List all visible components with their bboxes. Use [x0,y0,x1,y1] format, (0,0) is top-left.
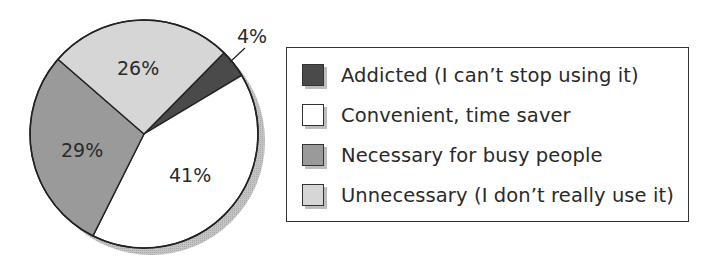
slice-label-unnecessary: 26% [117,57,159,79]
legend-item-convenient: Convenient, time saver [302,100,571,130]
pie-chart: 4% 41% 29% 26% [0,0,290,271]
slice-label-convenient: 41% [169,164,211,186]
legend-swatch-convenient [302,104,324,126]
legend-label: Necessary for busy people [341,144,603,167]
legend-swatch-necessary [302,144,324,166]
legend-label: Convenient, time saver [341,104,571,127]
legend-swatch-unnecessary [302,184,324,206]
legend-item-unnecessary: Unnecessary (I don’t really use it) [302,180,674,210]
legend: Addicted (I can’t stop using it) Conveni… [286,47,689,222]
legend-label: Unnecessary (I don’t really use it) [341,184,674,207]
legend-item-necessary: Necessary for busy people [302,140,603,170]
legend-label: Addicted (I can’t stop using it) [341,64,639,87]
slice-label-necessary: 29% [61,139,103,161]
legend-swatch-addicted [302,64,324,86]
slice-leader-line-addicted [230,48,245,62]
slice-label-addicted: 4% [237,25,267,47]
legend-item-addicted: Addicted (I can’t stop using it) [302,60,639,90]
